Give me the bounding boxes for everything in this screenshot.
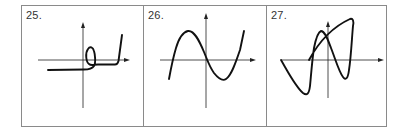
graph-25-plot — [22, 6, 143, 126]
y-axis-arrow-icon — [326, 21, 330, 27]
graph-panel-27: 27. — [266, 6, 388, 126]
y-axis-arrow-icon — [81, 22, 85, 28]
x-axis-arrow-icon — [124, 58, 130, 62]
y-axis-arrow-icon — [204, 13, 208, 19]
x-axis-arrow-icon — [250, 58, 256, 62]
graph-26-plot — [144, 6, 267, 126]
graph-27-plot — [267, 6, 389, 126]
graph-25-curve — [48, 35, 122, 70]
graph-27-curve — [281, 19, 353, 95]
graph-26-curve — [169, 31, 244, 80]
figure-row: 25. 26. 27. — [21, 5, 387, 127]
x-axis-arrow-icon — [378, 58, 384, 62]
graph-panel-25: 25. — [22, 6, 143, 126]
graph-panel-26: 26. — [143, 6, 266, 126]
